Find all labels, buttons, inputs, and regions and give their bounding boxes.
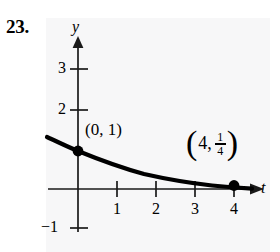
fraction-one-quarter: 1 4 [215,131,226,158]
open-paren: ( [186,129,197,157]
close-paren: ) [227,129,238,157]
y-axis-label: y [72,18,79,36]
point-label-0-1: (0, 1) [85,120,122,140]
y-tick-label-3: 3 [44,59,66,77]
x-tick-label-4: 4 [224,200,244,218]
x-tick-label-1: 1 [107,200,127,218]
y-tick-label-2: 2 [44,100,66,118]
x-tick-label-2: 2 [146,200,166,218]
fraction-denominator: 4 [215,145,225,157]
y-tick-label-minus-1: −1 [36,218,58,236]
fraction-numerator: 1 [215,131,225,143]
figure-container: 23. y t 3 [0,0,280,252]
x-tick-label-3: 3 [185,200,205,218]
point-label-4-one-quarter: ( 4 , 1 4 ) [186,130,238,158]
point-4-x-value: 4 [198,133,207,154]
data-point-0-1 [73,146,84,157]
x-axis-label: t [261,179,265,197]
data-point-4-one-quarter [229,180,240,191]
y-axis [73,36,84,232]
point-4-comma: , [207,133,212,154]
